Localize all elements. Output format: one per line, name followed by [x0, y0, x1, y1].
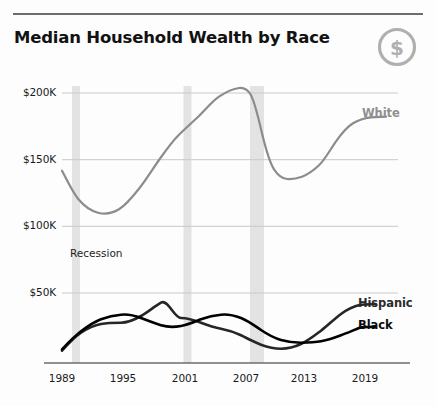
gridlines — [62, 93, 398, 293]
series-line-hispanic — [62, 302, 375, 351]
chart-plot — [0, 0, 436, 406]
y-tick-100k: $100K — [4, 219, 56, 231]
series-line-white — [62, 88, 386, 214]
series-line-black — [62, 315, 375, 350]
recession-band — [250, 86, 264, 363]
x-tick-2019: 2019 — [343, 372, 387, 384]
recession-bands — [72, 86, 264, 363]
x-tick-2001: 2001 — [163, 372, 207, 384]
y-tick-150k: $150K — [4, 153, 56, 165]
x-tick-2007: 2007 — [224, 372, 268, 384]
series-label-black: Black — [358, 318, 392, 332]
x-tick-1995: 1995 — [101, 372, 145, 384]
chart-card: Median Household Wealth by Race $ — [0, 0, 436, 406]
x-tick-2013: 2013 — [282, 372, 326, 384]
series-label-hispanic: Hispanic — [358, 296, 413, 310]
x-tick-1989: 1989 — [40, 372, 84, 384]
y-tick-50k: $50K — [4, 286, 56, 298]
recession-band — [72, 86, 80, 363]
y-tick-200k: $200K — [4, 86, 56, 98]
annotation-recession: Recession — [70, 247, 122, 259]
series-label-white: White — [362, 106, 400, 120]
